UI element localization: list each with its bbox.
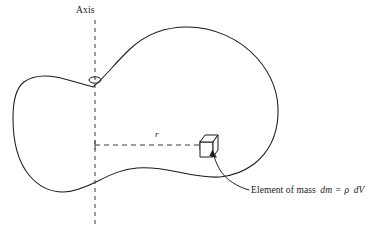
element-of-mass-label: Element of mass dm = ρ dV: [251, 186, 364, 196]
mass-element-cube: [200, 135, 218, 157]
element-label-dm: dm: [320, 185, 332, 195]
element-label-rho: ρ: [345, 185, 350, 195]
figure-canvas: [0, 0, 384, 238]
element-label-equals: =: [335, 185, 342, 195]
element-label-dv: dV: [354, 185, 365, 195]
element-label-prefix: Element of mass: [251, 185, 316, 195]
rigid-body-outline: [13, 27, 278, 192]
axis-label: Axis: [76, 6, 95, 16]
moment-of-inertia-figure: Axis r Element of mass dm = ρ dV: [0, 0, 384, 238]
element-leader-line: [213, 152, 249, 190]
radius-label: r: [155, 130, 159, 139]
